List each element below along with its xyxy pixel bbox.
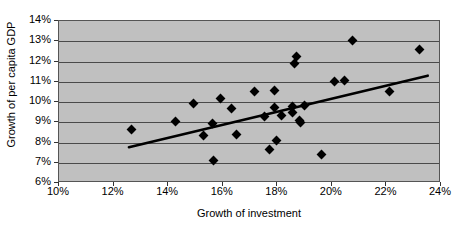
x-axis-title: Growth of investment — [58, 206, 440, 220]
y-tick-mark — [54, 40, 58, 41]
y-tick-label: 7% — [15, 156, 51, 167]
x-tick-label: 16% — [202, 186, 242, 197]
y-tick-label: 11% — [15, 75, 51, 86]
plot-area — [58, 20, 440, 182]
y-tick-mark — [54, 61, 58, 62]
y-tick-label: 12% — [15, 55, 51, 66]
y-tick-label: 13% — [15, 34, 51, 45]
y-tick-mark — [54, 81, 58, 82]
gridline — [59, 102, 439, 103]
y-tick-mark — [54, 142, 58, 143]
x-tick-label: 22% — [365, 186, 405, 197]
gridline — [59, 82, 439, 83]
x-tick-label: 12% — [93, 186, 133, 197]
x-tick-label: 10% — [38, 186, 78, 197]
x-tick-label: 24% — [420, 186, 460, 197]
gridline — [59, 143, 439, 144]
x-tick-label: 18% — [256, 186, 296, 197]
y-tick-mark — [54, 121, 58, 122]
x-tick-label: 14% — [147, 186, 187, 197]
y-tick-label: 8% — [15, 136, 51, 147]
x-tick-label: 20% — [311, 186, 351, 197]
scatter-chart: Growth of per capita GDP 6%7%8%9%10%11%1… — [0, 0, 461, 231]
gridline — [59, 122, 439, 123]
y-tick-label: 10% — [15, 95, 51, 106]
gridline — [59, 163, 439, 164]
y-tick-mark — [54, 162, 58, 163]
y-tick-label: 9% — [15, 115, 51, 126]
y-tick-label: 14% — [15, 14, 51, 25]
gridline — [59, 41, 439, 42]
gridline — [59, 62, 439, 63]
y-tick-mark — [54, 101, 58, 102]
y-tick-mark — [54, 20, 58, 21]
